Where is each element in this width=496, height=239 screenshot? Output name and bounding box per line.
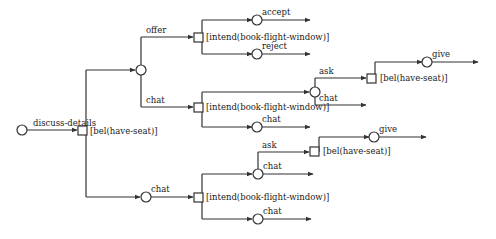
bel-root-label: [bel(have-seat)] — [90, 126, 158, 136]
root-branch: discuss-details [bel(have-seat)] — [17, 70, 158, 197]
chat-bottom-label: chat — [151, 184, 170, 194]
start-state-node[interactable] — [17, 125, 27, 135]
dialogue-tree-diagram: discuss-details [bel(have-seat)] offer c… — [0, 0, 496, 239]
reject-state-node[interactable] — [252, 49, 262, 59]
top-intend-branch: [intend(book-flight-window)] accept reje… — [194, 7, 329, 59]
intend-top-condition[interactable] — [194, 33, 203, 42]
intend-mid-label: [intend(book-flight-window)] — [206, 102, 329, 112]
chat-mid-inner-label: chat — [319, 93, 338, 103]
ask-mid-label: ask — [319, 66, 334, 76]
bel-mid-label: [bel(have-seat)] — [380, 73, 448, 83]
bottom-branch: chat [intend(book-flight-window)] chat a… — [141, 124, 426, 224]
accept-label: accept — [262, 7, 291, 17]
chat-mid-lower-label: chat — [262, 114, 281, 124]
give-bottom-state-node[interactable] — [369, 132, 379, 142]
intend-bottom-label: [intend(book-flight-window)] — [206, 192, 329, 202]
bel-bottom-condition[interactable] — [310, 147, 319, 156]
chat-bottom-lower-label: chat — [263, 206, 282, 216]
reject-label: reject — [262, 41, 288, 51]
intend-bottom-condition[interactable] — [194, 193, 203, 202]
chat-mid-label: chat — [146, 95, 165, 105]
upper-branch: offer chat — [136, 25, 193, 107]
upper-state-node[interactable] — [136, 65, 146, 75]
give-bottom-label: give — [379, 124, 397, 134]
bel-bottom-label: [bel(have-seat)] — [323, 146, 391, 156]
accept-state-node[interactable] — [252, 15, 262, 25]
ask-bottom-label: ask — [262, 140, 277, 150]
chat-bottom-lower-state-node[interactable] — [253, 214, 263, 224]
bel-mid-condition[interactable] — [367, 74, 376, 83]
chat-mid-lower-state-node[interactable] — [252, 122, 262, 132]
chat-bottom-upper-label: chat — [263, 161, 282, 171]
mid-intend-branch: [intend(book-flight-window)] chat ask ch… — [194, 49, 478, 132]
chat-bottom-upper-state-node[interactable] — [253, 169, 263, 179]
give-mid-label: give — [432, 49, 450, 59]
chat-bottom-state-node[interactable] — [141, 192, 151, 202]
give-mid-state-node[interactable] — [422, 57, 432, 67]
offer-label: offer — [146, 25, 167, 35]
intend-mid-condition[interactable] — [194, 103, 203, 112]
bel-have-seat-root-condition[interactable] — [78, 126, 87, 135]
